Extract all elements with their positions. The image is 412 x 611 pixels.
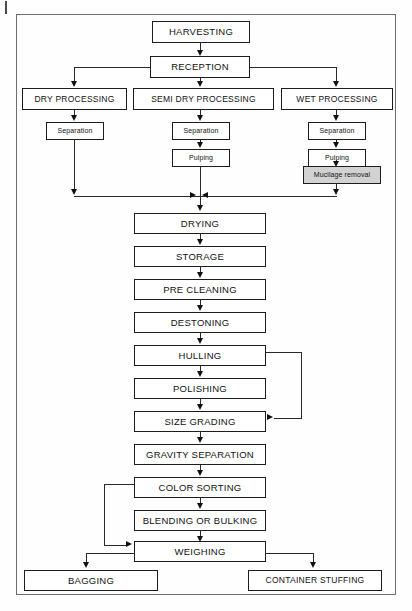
edge-weighing-to-container-h [265,553,314,554]
node-bagging[interactable]: BAGGING [24,570,158,591]
arrowhead-semi-separation [197,115,203,121]
node-container-stuffing[interactable]: CONTAINER STUFFING [248,570,382,591]
node-mucilage-removal[interactable]: Mucilage removal [303,166,381,184]
arrowhead-dry-merge [71,189,77,195]
arrowhead-polishing [197,371,203,377]
edge-colorsorting-bypass-side [104,484,105,545]
flowchart-root: HARVESTING RECEPTION DRY PROCESSING SEMI… [0,0,412,611]
node-hulling[interactable]: HULLING [134,345,266,366]
node-gravity-separation[interactable]: GRAVITY SEPARATION [134,444,266,465]
edge-dry-separation-to-merge [74,140,75,191]
scan-artifact-mark [5,1,7,14]
node-blending-or-bulking[interactable]: BLENDING OR BULKING [134,510,266,531]
node-wet-separation[interactable]: Separation [308,122,366,140]
arrowhead-blending-or-bulking [197,503,203,509]
arrowhead-pre-cleaning [197,272,203,278]
node-storage[interactable]: STORAGE [134,246,266,267]
node-wet-processing[interactable]: WET PROCESSING [281,88,393,110]
edge-semi-pulping-to-merge [200,167,201,196]
arrowhead-container-stuffing [310,562,316,568]
arrowhead-wet-processing [333,81,339,87]
edge-colorsorting-bypass-bottom [104,545,127,546]
edge-reception-to-wet [336,67,337,82]
arrowhead-semi-dry-processing [197,81,203,87]
node-reception[interactable]: RECEPTION [150,56,250,78]
arrowhead-bagging [83,562,89,568]
node-dry-processing[interactable]: DRY PROCESSING [22,88,127,110]
node-color-sorting[interactable]: COLOR SORTING [134,477,266,498]
edge-reception-to-dry [74,67,75,82]
edge-colorsorting-bypass-top [104,484,135,485]
arrowhead-gravity-separation [197,437,203,443]
arrowhead-wet-merge [333,189,339,195]
node-destoning[interactable]: DESTONING [134,312,266,333]
edge-hulling-loop-bottom [274,418,302,419]
arrowhead-dry-separation [71,115,77,121]
arrowhead-size-grading [197,404,203,410]
node-drying[interactable]: DRYING [134,213,266,234]
arrowhead-color-sorting [197,470,203,476]
node-size-grading[interactable]: SIZE GRADING [134,411,266,432]
edge-weighing-to-bagging-h [86,553,135,554]
arrowhead-size-grading-feedback [267,414,273,420]
node-semi-separation[interactable]: Separation [172,122,230,140]
arrowhead-semi-pulping [197,142,203,148]
edge-reception-right-bus [249,67,337,68]
node-polishing[interactable]: POLISHING [134,378,266,399]
arrowhead-wet-separation [333,115,339,121]
edge-hulling-loop-top [266,352,302,353]
arrowhead-destoning [197,305,203,311]
arrowhead-hulling [197,338,203,344]
edge-hulling-loop-side [301,352,302,418]
node-semi-dry-processing[interactable]: SEMI DRY PROCESSING [133,88,274,110]
node-harvesting[interactable]: HARVESTING [152,21,250,43]
node-dry-separation[interactable]: Separation [46,122,104,140]
arrowhead-merge-right [190,192,196,198]
arrowhead-merge-left [202,192,208,198]
arrowhead-dry-processing [71,81,77,87]
arrowhead-weighing-bypass [126,541,132,547]
arrowhead-wet-pulping [333,142,339,148]
edge-reception-left-bus [74,67,151,68]
node-semi-pulping[interactable]: Pulping [172,149,230,167]
arrowhead-drying [197,205,203,211]
node-pre-cleaning[interactable]: PRE CLEANING [134,279,266,300]
node-weighing[interactable]: WEIGHING [134,541,266,562]
arrowhead-storage [197,239,203,245]
